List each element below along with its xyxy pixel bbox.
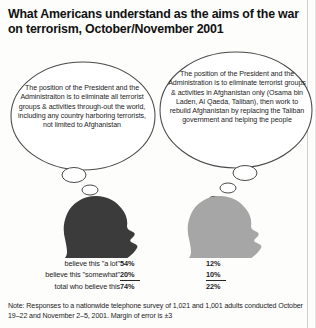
stats-row-label: believe this "a lot" — [8, 259, 120, 270]
stats-row-label: believe this "somewhat" — [8, 270, 120, 281]
stats-row: believe this "somewhat"20%10% — [8, 270, 308, 281]
scan-outer-rule — [315, 0, 316, 328]
stats-value-left: 74% — [120, 280, 206, 292]
stats-value-right: 12% — [206, 259, 308, 270]
thought-bubble-right-tail-3 — [209, 196, 220, 203]
statistics-table: believe this "a lot"54%12%believe this "… — [8, 259, 308, 292]
thought-bubble-left-tail-3 — [98, 198, 109, 205]
stats-value-right: 10% — [206, 270, 308, 281]
stats-value-left-text: 20% — [120, 270, 140, 281]
thought-bubble-right-tail-1 — [233, 166, 257, 181]
stats-value-left: 54% — [120, 259, 206, 270]
stats-row-label: total who believe this — [8, 280, 120, 292]
stats-row: total who believe this74%22% — [8, 280, 308, 292]
stats-value-right-text: 12% — [206, 259, 226, 270]
stats-value-right-text: 10% — [206, 270, 226, 281]
stats-value-left-text: 54% — [120, 259, 140, 270]
thought-bubble-left-tail-2 — [82, 185, 98, 195]
stats-value-right-text: 22% — [206, 280, 226, 292]
infographic-page: What Americans understand as the aims of… — [0, 0, 316, 328]
stats-row: believe this "a lot"54%12% — [8, 259, 308, 270]
survey-note: Note: Responses to a nationwide telephon… — [8, 302, 308, 322]
thought-bubble-left-tail-1 — [62, 168, 86, 183]
thought-bubble-left-text: The position of the President and the Ad… — [14, 84, 150, 130]
thought-bubble-right-tail-2 — [220, 183, 236, 193]
stats-value-left: 20% — [120, 270, 206, 281]
page-title: What Americans understand as the aims of… — [8, 7, 304, 36]
stats-value-left-text: 74% — [120, 280, 140, 292]
thought-bubble-right-text: The position of the President and the Ad… — [166, 70, 308, 126]
stats-value-right: 22% — [206, 280, 308, 292]
